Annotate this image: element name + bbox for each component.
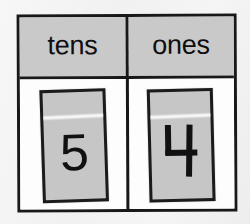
header-label-tens: tens bbox=[47, 32, 97, 59]
body-cell-ones bbox=[127, 79, 235, 209]
body-cell-tens: 5 bbox=[20, 79, 128, 209]
chart-body-row: 5 bbox=[20, 79, 235, 210]
digit-card-ones[interactable] bbox=[146, 87, 215, 202]
digit-value-tens: 5 bbox=[59, 125, 90, 178]
card-glare-ones bbox=[146, 112, 215, 120]
chart-header-row: tens ones bbox=[20, 17, 234, 77]
digit-value-ones bbox=[162, 121, 199, 178]
header-cell-ones: ones bbox=[128, 17, 234, 76]
header-label-ones: ones bbox=[152, 32, 209, 59]
place-value-chart: tens ones 5 bbox=[17, 14, 238, 213]
four-right-stroke bbox=[186, 124, 192, 176]
header-cell-tens: tens bbox=[20, 17, 129, 76]
digit-card-tens[interactable]: 5 bbox=[39, 88, 109, 203]
card-glare-tens bbox=[39, 112, 108, 120]
